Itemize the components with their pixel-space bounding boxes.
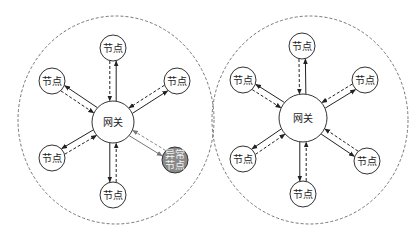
node-label: 节点 (103, 43, 123, 54)
node-label: 节点 (357, 156, 377, 167)
uplink-arrow (256, 134, 285, 154)
downlink-arrow (129, 136, 162, 156)
downlink-arrow (62, 130, 94, 149)
node-label: 节点 (165, 160, 185, 171)
node-label: 异常 (165, 148, 185, 160)
gateway-label: 网关 (103, 116, 123, 128)
node-label: 节点 (103, 190, 123, 201)
downlink-arrow (252, 129, 281, 149)
node-label: 节点 (233, 154, 253, 165)
node-label: 节点 (292, 41, 312, 52)
downlink-arrow (256, 84, 285, 102)
downlink-arrow (325, 90, 355, 109)
uplink-arrow (65, 135, 97, 154)
diagram-1: 网关节点节点节点节点异常节点节点 (18, 16, 214, 224)
network-diagram: 网关节点节点节点节点异常节点节点网关节点节点节点节点节点节点 (0, 0, 419, 237)
node-label: 节点 (42, 76, 62, 87)
uplink-arrow (322, 84, 352, 103)
node-label: 节点 (355, 75, 375, 86)
diagram-2: 网关节点节点节点节点节点节点 (212, 16, 408, 224)
node-label: 节点 (42, 153, 62, 164)
diagram-canvas: 网关节点节点节点节点异常节点节点网关节点节点节点节点节点节点 (0, 0, 419, 237)
node-label: 节点 (293, 189, 313, 200)
gateway-label: 网关 (293, 112, 313, 124)
node-label: 节点 (167, 76, 187, 87)
uplink-arrow (252, 90, 281, 108)
node-label: 节点 (233, 75, 253, 86)
